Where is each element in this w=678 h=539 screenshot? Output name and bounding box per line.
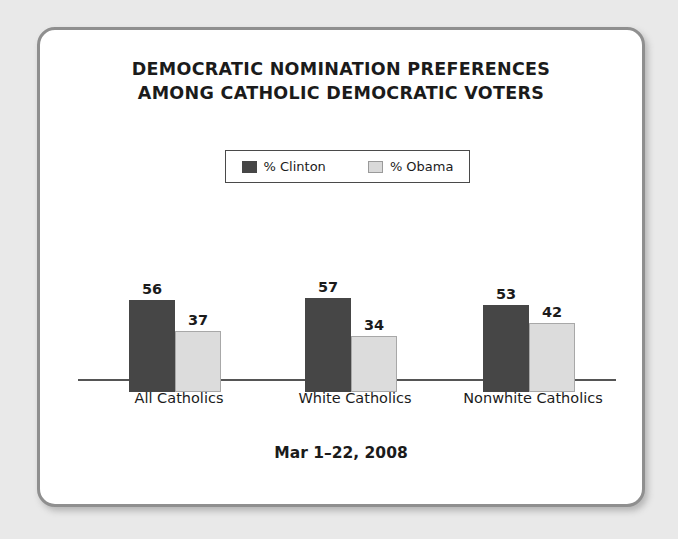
bar-value-clinton-1: 57 (318, 280, 338, 294)
bar-clinton-2[interactable] (483, 305, 529, 392)
bar-value-obama-1: 34 (364, 318, 384, 332)
bar-group-all-catholics: 56 37 (129, 192, 221, 392)
category-label-all-catholics: All Catholics (89, 390, 269, 406)
bar-wrap-clinton-0: 56 (129, 192, 175, 392)
category-label-white-catholics: White Catholics (265, 390, 445, 406)
bar-value-obama-0: 37 (188, 313, 208, 327)
bar-wrap-obama-1: 34 (351, 192, 397, 392)
bar-obama-0[interactable] (175, 331, 221, 392)
category-label-nonwhite-catholics: Nonwhite Catholics (438, 390, 628, 406)
chart-card: DEMOCRATIC NOMINATION PREFERENCES AMONG … (37, 27, 645, 507)
chart-footer-date: Mar 1–22, 2008 (40, 444, 642, 462)
bar-obama-2[interactable] (529, 323, 575, 392)
bar-wrap-clinton-2: 53 (483, 192, 529, 392)
bar-value-clinton-2: 53 (496, 287, 516, 301)
bar-clinton-1[interactable] (305, 298, 351, 392)
bar-clinton-0[interactable] (129, 300, 175, 392)
bar-wrap-clinton-1: 57 (305, 192, 351, 392)
bar-wrap-obama-2: 42 (529, 192, 575, 392)
bar-group-white-catholics: 57 34 (305, 192, 397, 392)
bar-wrap-obama-0: 37 (175, 192, 221, 392)
screenshot-stage: DEMOCRATIC NOMINATION PREFERENCES AMONG … (0, 0, 678, 539)
plot-area: 56 37 57 34 53 (40, 30, 642, 504)
bar-group-nonwhite-catholics: 53 42 (483, 192, 575, 392)
bar-value-clinton-0: 56 (142, 282, 162, 296)
bar-value-obama-2: 42 (542, 305, 562, 319)
bar-obama-1[interactable] (351, 336, 397, 392)
